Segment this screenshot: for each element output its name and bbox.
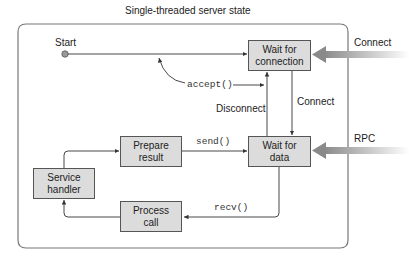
external-connect-arrow bbox=[312, 46, 409, 63]
send-label: send() bbox=[196, 136, 230, 147]
state-label-line2: result bbox=[133, 152, 169, 164]
start-label: Start bbox=[55, 37, 76, 48]
state-label-line2: data bbox=[262, 152, 296, 164]
recv-label: recv() bbox=[214, 202, 248, 213]
state-service-handler: Service handler bbox=[33, 168, 95, 199]
external-rpc-label: RPC bbox=[354, 133, 375, 144]
connect-internal-label: Connect bbox=[297, 96, 334, 107]
state-label-line1: Process bbox=[133, 205, 169, 217]
state-label-line2: connection bbox=[255, 56, 303, 68]
state-process-call: Process call bbox=[120, 201, 182, 232]
state-label-line2: call bbox=[133, 217, 169, 229]
state-label-line1: Prepare bbox=[133, 140, 169, 152]
state-wait-for-connection: Wait for connection bbox=[248, 40, 311, 71]
state-label-line2: handler bbox=[47, 184, 80, 196]
state-label-line1: Service bbox=[47, 172, 80, 184]
state-prepare-result: Prepare result bbox=[120, 136, 182, 167]
start-dot bbox=[62, 51, 68, 57]
external-rpc-arrow bbox=[312, 142, 409, 159]
accept-label: accept() bbox=[187, 79, 233, 90]
state-label-line1: Wait for bbox=[262, 140, 296, 152]
external-connect-label: Connect bbox=[354, 37, 391, 48]
diagram-title: Single-threaded server state bbox=[125, 5, 251, 16]
state-label-line1: Wait for bbox=[255, 44, 303, 56]
state-wait-for-data: Wait for data bbox=[248, 136, 311, 167]
disconnect-label: Disconnect bbox=[216, 103, 265, 114]
process-to-handler-arrow bbox=[64, 200, 120, 217]
accept-curve-arrow bbox=[159, 58, 185, 83]
handler-to-prepare-arrow bbox=[64, 151, 119, 168]
